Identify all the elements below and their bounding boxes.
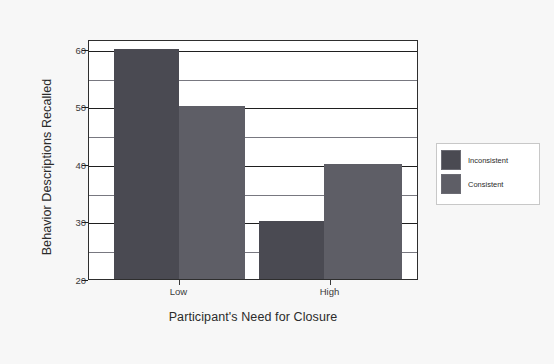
x-axis-tick-marks: LowHigh: [88, 280, 418, 286]
bar-low-consistent: [179, 106, 245, 279]
y-axis-tick-labels: 2030405060: [56, 40, 86, 280]
chart-canvas: Behavior Descriptions Recalled 203040506…: [0, 0, 554, 364]
x-axis-tick-label: Low: [170, 286, 187, 297]
legend-item[interactable]: Inconsistent: [441, 148, 535, 172]
legend-label: Consistent: [468, 180, 503, 189]
plot-area: [88, 40, 418, 280]
bar-high-inconsistent: [259, 221, 324, 279]
chart-legend: InconsistentConsistent: [436, 143, 540, 205]
legend-swatch-icon: [441, 150, 461, 170]
x-axis-tick: [330, 280, 331, 285]
x-axis-tick: [179, 280, 180, 285]
legend-swatch-icon: [441, 174, 461, 194]
x-axis-title: Participant's Need for Closure: [88, 310, 418, 324]
bar-low-inconsistent: [114, 49, 179, 279]
bar-high-consistent: [324, 164, 402, 279]
legend-label: Inconsistent: [468, 156, 508, 165]
x-axis-tick-label: High: [320, 286, 340, 297]
legend-item[interactable]: Consistent: [441, 172, 535, 196]
y-axis-title: Behavior Descriptions Recalled: [40, 47, 54, 287]
